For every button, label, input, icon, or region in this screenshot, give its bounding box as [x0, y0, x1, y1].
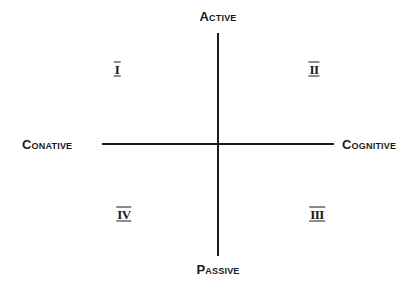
quadrant-label-i: I [114, 62, 121, 77]
axis-label-passive: Passive [196, 263, 239, 276]
axis-label-active: Active [199, 10, 236, 23]
quadrant-label-iii: III [309, 207, 325, 222]
quadrant-label-iv: IV [116, 207, 131, 222]
axis-label-conative: Conative [22, 138, 72, 151]
quadrant-label-ii: II [308, 62, 319, 77]
horizontal-axis-line [102, 143, 334, 145]
axis-label-cognitive: Cognitive [342, 138, 396, 151]
